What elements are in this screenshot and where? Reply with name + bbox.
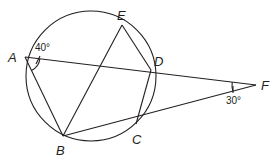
chord-ed: [122, 25, 151, 70]
secant-af: [25, 57, 256, 85]
label-c: C: [132, 132, 142, 147]
label-a: A: [7, 50, 17, 65]
label-d: D: [154, 54, 163, 69]
angle-label-a: 40°: [35, 42, 50, 53]
angle-label-f: 30°: [226, 95, 241, 106]
geometry-diagram: A E D C B F 40° 30°: [0, 0, 277, 160]
label-e: E: [117, 8, 126, 23]
label-b: B: [56, 143, 65, 158]
chord-ab: [25, 57, 63, 136]
secant-bf: [63, 85, 256, 136]
label-f: F: [261, 78, 270, 93]
angle-arc-a: [32, 59, 40, 71]
chord-dc: [136, 70, 151, 124]
chord-be: [63, 25, 122, 136]
